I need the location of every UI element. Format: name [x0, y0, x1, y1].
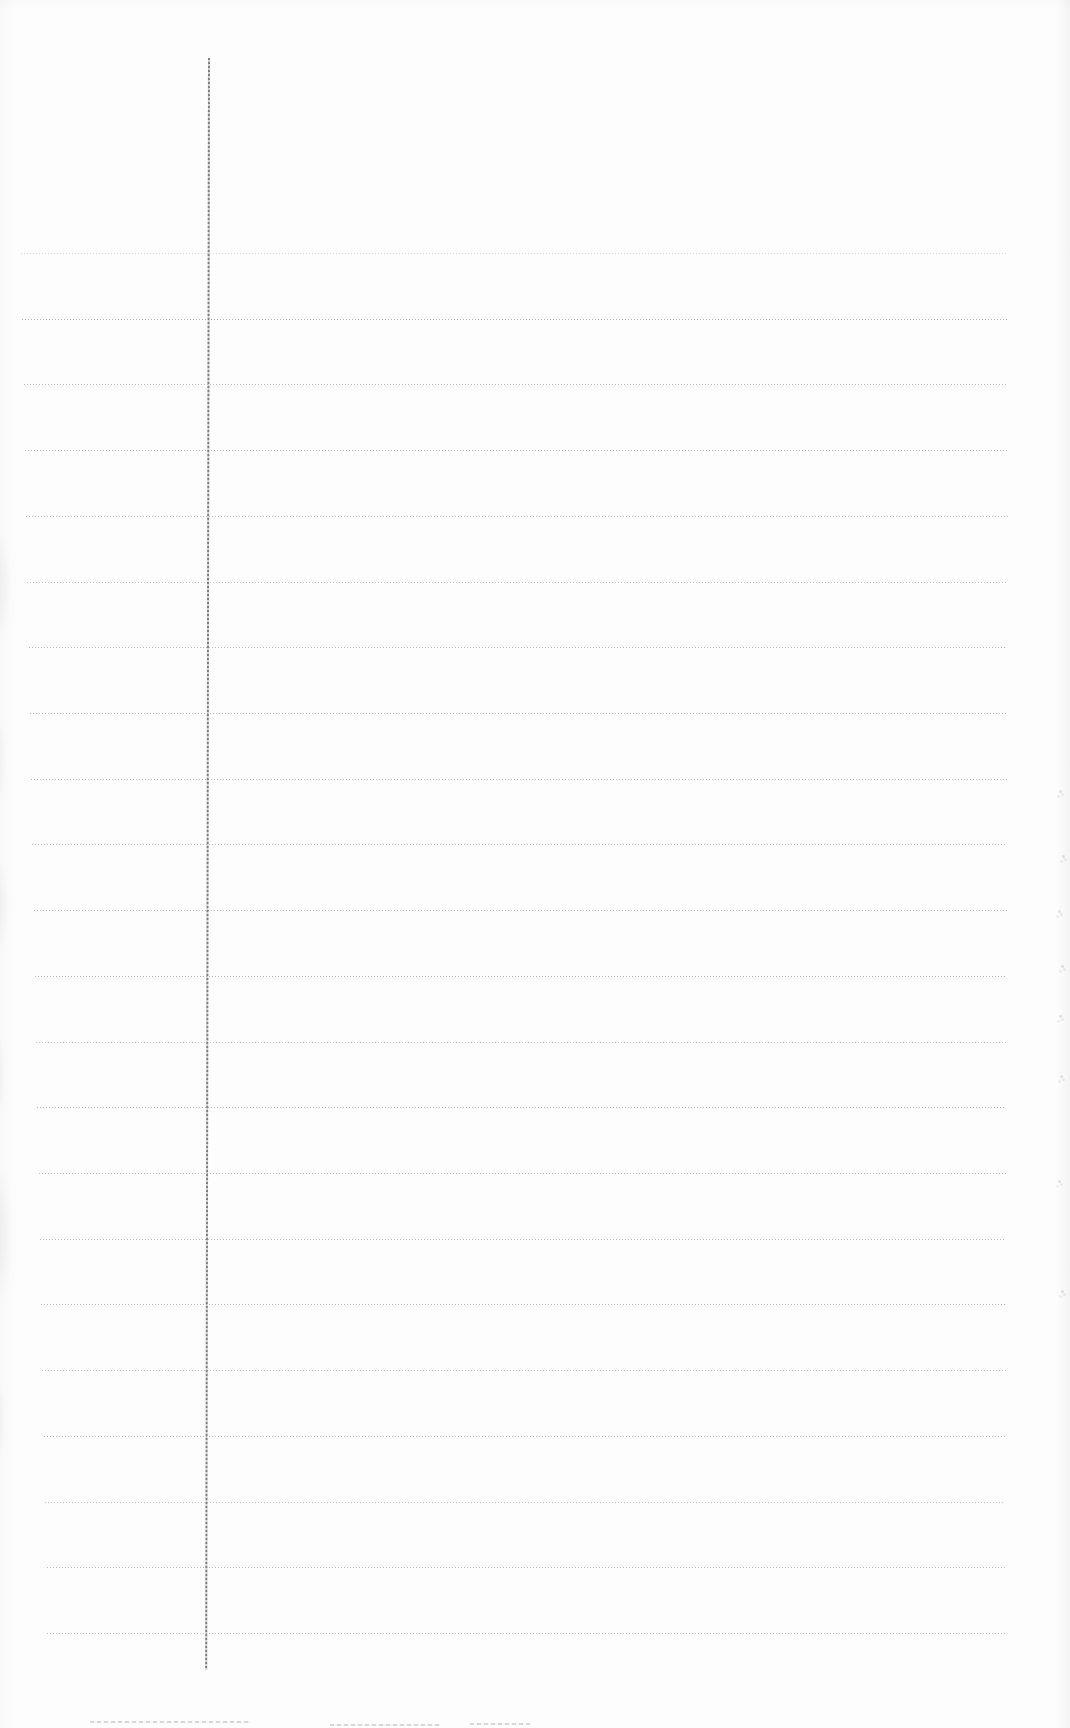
ruled-line	[34, 910, 1007, 911]
ruled-line	[37, 1107, 1006, 1108]
scan-speck	[1060, 1075, 1063, 1078]
scan-speck	[1058, 1180, 1061, 1183]
ruled-line	[22, 319, 1008, 320]
ruled-line	[47, 1567, 1005, 1568]
scan-speck	[1058, 910, 1061, 913]
edge-shadow-blob	[0, 853, 9, 957]
bottom-smudge	[330, 1724, 440, 1726]
ruled-line	[26, 516, 1008, 517]
ruled-line	[24, 384, 1008, 385]
ruled-line	[25, 450, 1008, 451]
ruled-line	[32, 844, 1007, 845]
ruled-line	[39, 1173, 1006, 1174]
ruled-line	[29, 647, 1007, 648]
ruled-line	[42, 1370, 1006, 1371]
ruled-line	[40, 1239, 1006, 1240]
ruled-line	[47, 1633, 1005, 1634]
margin-line	[205, 58, 210, 1670]
edge-shadow-blob	[0, 527, 12, 643]
edge-shadow-blob	[0, 1029, 6, 1121]
bottom-smudge	[90, 1721, 250, 1723]
page-right-edge-shadow	[1056, 0, 1070, 1728]
scan-speck	[1059, 1015, 1062, 1018]
ruled-line	[21, 253, 1008, 254]
bottom-smudge	[470, 1723, 530, 1725]
ruled-line	[27, 582, 1008, 583]
notebook-page	[0, 0, 1070, 1728]
ruled-line	[45, 1502, 1005, 1503]
edge-shadow-blob	[0, 1378, 6, 1462]
edge-shadow-blob	[0, 712, 7, 808]
ruled-line	[30, 713, 1007, 714]
edge-shadow-blob	[0, 1163, 14, 1307]
ruled-line	[31, 779, 1007, 780]
scan-speck	[1061, 1290, 1064, 1293]
paper-tone-overlay	[0, 0, 1070, 1728]
scan-speck	[1061, 965, 1064, 968]
ruled-line	[41, 1304, 1006, 1305]
ruled-line	[36, 1042, 1006, 1043]
ruled-line	[44, 1436, 1006, 1437]
scan-speck	[1059, 790, 1062, 793]
scan-speck	[1062, 855, 1065, 858]
ruled-line	[35, 976, 1007, 977]
